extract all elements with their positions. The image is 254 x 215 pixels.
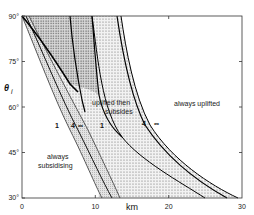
label-always-uplifted: always uplifted — [174, 100, 220, 108]
x-tick-0: 0 — [20, 203, 24, 210]
y-tick-90: 90° — [8, 13, 19, 20]
x-tick-10: 10 — [91, 203, 99, 210]
curve-label-mid-1: 1 — [100, 122, 104, 129]
y-tick-45: 45° — [8, 149, 19, 156]
curve-label-right-4: 4 — [142, 120, 146, 127]
curve-label-left-4: 4 — [71, 122, 75, 129]
curve-label-left-inf: ∞ — [78, 122, 83, 129]
curve-label-right-inf: ∞ — [154, 120, 159, 127]
y-tick-75: 75° — [8, 58, 19, 65]
y-axis-title-subscript: i — [11, 88, 13, 95]
x-axis-title: km — [126, 202, 138, 212]
label-uplifted-then-1: uplifted then — [92, 99, 130, 107]
x-tick-20: 20 — [165, 203, 173, 210]
plot-area: uplifted then subsides always uplifted a… — [22, 16, 238, 198]
y-tick-30: 30° — [8, 194, 19, 201]
chart-figure: uplifted then subsides always uplifted a… — [0, 0, 254, 215]
y-tick-60: 60° — [8, 104, 19, 111]
label-subsidising: subsidising — [38, 162, 73, 170]
label-uplifted-then-2: subsides — [105, 108, 133, 115]
curve-label-left-1: 1 — [55, 122, 59, 129]
label-always: always — [47, 153, 69, 161]
y-axis-title: θ — [4, 83, 9, 93]
x-tick-30: 30 — [238, 203, 246, 210]
